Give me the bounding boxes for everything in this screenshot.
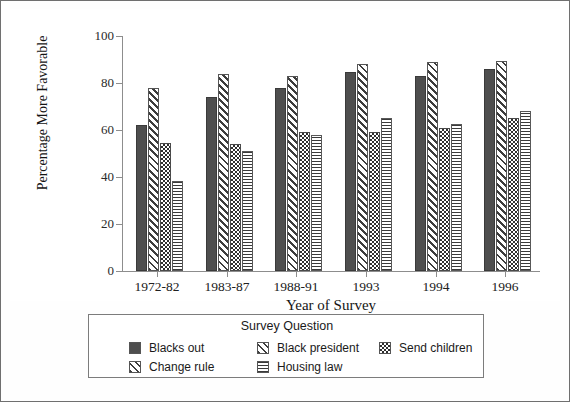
bar-send-children-1988-91 <box>299 132 310 271</box>
legend-label: Housing law <box>277 361 342 373</box>
y-tick-label: 80 <box>78 76 114 89</box>
chart-page: 020406080100 Percentage More Favorable 1… <box>0 0 570 402</box>
legend-item-change-rule[interactable]: Change rule <box>129 359 214 374</box>
bar-blacks-out-1993 <box>345 72 356 271</box>
legend-swatch-icon <box>129 342 141 354</box>
x-tick-mark <box>366 271 367 277</box>
bar-housing-law-1972-82 <box>172 181 183 271</box>
bar-housing-law-1993 <box>381 118 392 271</box>
y-tick-text: 80 <box>84 76 114 89</box>
y-tick-mark <box>116 36 122 37</box>
x-tick-mark <box>157 271 158 277</box>
y-tick-mark <box>116 130 122 131</box>
bar-send-children-1972-82 <box>160 143 171 271</box>
y-tick-text: 20 <box>84 217 114 230</box>
legend-title: Survey Question <box>89 319 485 333</box>
y-tick-mark <box>116 224 122 225</box>
y-tick-mark <box>116 83 122 84</box>
legend-item-blacks-out[interactable]: Blacks out <box>129 340 204 355</box>
y-tick-label: 0 <box>78 264 114 277</box>
legend-label: Black president <box>277 342 359 354</box>
bar-blacks-out-1983-87 <box>206 97 217 271</box>
legend-swatch-icon <box>257 361 269 373</box>
bar-housing-law-1996 <box>520 111 531 271</box>
bar-send-children-1993 <box>369 132 380 271</box>
bar-blacks-out-1996 <box>484 69 495 271</box>
bar-blacks-out-1988-91 <box>275 88 286 271</box>
y-tick-label: 20 <box>78 217 114 230</box>
bar-change-rule-1983-87 <box>218 74 229 271</box>
legend-item-housing-law[interactable]: Housing law <box>257 359 342 374</box>
bar-change-rule-1972-82 <box>148 88 159 271</box>
legend-swatch-icon <box>379 342 391 354</box>
plot-area: 020406080100 Percentage More Favorable 1… <box>10 9 560 301</box>
x-tick-mark <box>296 271 297 277</box>
bar-change-rule-1993 <box>357 64 368 271</box>
x-tick-mark <box>227 271 228 277</box>
x-tick-label-1994: 1994 <box>396 279 476 294</box>
x-tick-label-1983-87: 1983-87 <box>187 279 267 294</box>
x-tick-label-1972-82: 1972-82 <box>117 279 197 294</box>
legend-label: Send children <box>399 342 472 354</box>
y-tick-mark <box>116 271 122 272</box>
y-tick-mark <box>116 177 122 178</box>
bar-send-children-1996 <box>508 118 519 271</box>
x-tick-mark <box>505 271 506 277</box>
x-tick-label-1996: 1996 <box>465 279 545 294</box>
y-tick-label: 100 <box>78 29 114 42</box>
x-tick-label-1993: 1993 <box>326 279 406 294</box>
legend-swatch-icon <box>129 361 141 373</box>
bar-housing-law-1994 <box>451 124 462 271</box>
chart-legend: Survey Question Blacks outBlack presiden… <box>88 314 484 378</box>
y-axis-line <box>122 36 123 272</box>
bar-change-rule-1994 <box>427 62 438 271</box>
bar-change-rule-1996 <box>496 61 507 271</box>
y-axis-label: Percentage More Favorable <box>35 18 51 208</box>
x-tick-label-1988-91: 1988-91 <box>256 279 336 294</box>
bar-housing-law-1983-87 <box>242 151 253 271</box>
x-tick-mark <box>436 271 437 277</box>
y-tick-text: 0 <box>84 264 114 277</box>
y-tick-text: 60 <box>84 123 114 136</box>
bar-blacks-out-1994 <box>415 76 426 271</box>
y-tick-text: 40 <box>84 170 114 183</box>
y-tick-label: 60 <box>78 123 114 136</box>
y-tick-label: 40 <box>78 170 114 183</box>
legend-item-send-children[interactable]: Send children <box>379 340 472 355</box>
legend-label: Change rule <box>149 361 214 373</box>
bar-change-rule-1988-91 <box>287 76 298 271</box>
bar-send-children-1983-87 <box>230 144 241 271</box>
x-axis-line <box>122 271 540 272</box>
bar-blacks-out-1972-82 <box>136 125 147 271</box>
x-axis-label: Year of Survey <box>122 297 540 314</box>
legend-item-black-president[interactable]: Black president <box>257 340 359 355</box>
legend-swatch-icon <box>257 342 269 354</box>
bar-housing-law-1988-91 <box>311 135 322 271</box>
y-tick-text: 100 <box>84 29 114 42</box>
bar-send-children-1994 <box>439 128 450 271</box>
legend-label: Blacks out <box>149 342 204 354</box>
